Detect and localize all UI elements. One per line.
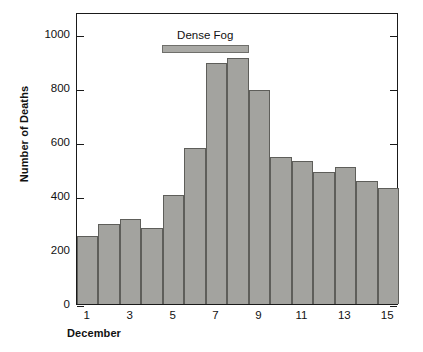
bar-december-13 — [335, 167, 356, 304]
x-tick-label-1: 1 — [72, 309, 102, 322]
bar-december-3 — [120, 219, 141, 304]
bar-december-8 — [227, 58, 248, 304]
x-tick-label-9: 9 — [243, 309, 273, 322]
bar-december-6 — [184, 148, 205, 304]
x-tick-label-15: 15 — [372, 309, 402, 322]
dense-fog-label: Dense Fog — [162, 29, 249, 41]
bar-december-10 — [270, 157, 291, 304]
bar-series — [77, 14, 397, 304]
x-tick-label-3: 3 — [115, 309, 145, 322]
bar-december-11 — [292, 161, 313, 304]
y-tick-label-400: 400 — [36, 191, 70, 203]
y-axis-tick-right-0 — [390, 306, 397, 307]
x-axis-title: December — [67, 327, 121, 339]
y-axis-title: Number of Deaths — [18, 69, 30, 199]
y-tick-label-1000: 1000 — [36, 29, 70, 41]
mortality-bar-chart: Number of Deaths 02004006008001000 Dense… — [0, 0, 423, 352]
x-axis-tick-labels: 13579111315 — [76, 309, 398, 325]
bar-december-1 — [77, 236, 98, 304]
bar-december-5 — [163, 195, 184, 305]
bar-december-2 — [98, 224, 119, 304]
bar-december-9 — [249, 90, 270, 304]
y-tick-label-200: 200 — [36, 245, 70, 257]
y-tick-label-800: 800 — [36, 83, 70, 95]
bar-december-7 — [206, 63, 227, 304]
x-tick-label-11: 11 — [286, 309, 316, 322]
x-tick-label-7: 7 — [201, 309, 231, 322]
bar-december-4 — [141, 228, 162, 305]
bar-december-15 — [378, 188, 399, 304]
bar-december-12 — [313, 172, 334, 304]
x-tick-label-13: 13 — [329, 309, 359, 322]
y-axis-tick-labels: 02004006008001000 — [30, 0, 70, 352]
x-tick-label-5: 5 — [158, 309, 188, 322]
y-axis-tick-left-0 — [77, 306, 84, 307]
bar-december-14 — [356, 181, 377, 304]
y-tick-label-600: 600 — [36, 137, 70, 149]
dense-fog-span-bar — [162, 45, 249, 53]
y-tick-label-0: 0 — [36, 299, 70, 311]
plot-area: Dense Fog — [76, 13, 398, 305]
